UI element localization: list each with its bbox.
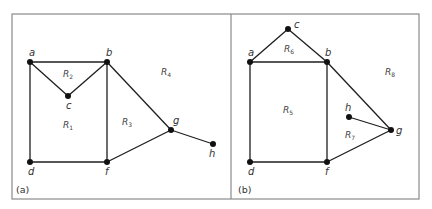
panel-b: abcdfghR5R6R7R8(b) [238, 19, 402, 195]
vertex-f [324, 159, 330, 165]
vertex-b [104, 59, 110, 65]
vertex-label-h: h [209, 148, 215, 159]
edge-c-b [68, 62, 107, 96]
vertex-label-f: f [325, 166, 330, 177]
region-label-r8: R8 [385, 67, 395, 78]
edge-a-c [30, 62, 68, 96]
figure-frame [12, 14, 419, 199]
edge-f-g [107, 130, 171, 162]
vertex-h [346, 114, 352, 120]
vertex-label-g: g [396, 125, 402, 136]
vertex-c [65, 93, 71, 99]
panel-label: (a) [16, 184, 29, 195]
vertex-label-c: c [66, 100, 72, 111]
vertex-g [388, 127, 394, 133]
edge-g-h [171, 130, 213, 144]
vertex-label-g: g [173, 115, 179, 126]
edge-f-g [327, 130, 391, 162]
edge-a-c [250, 29, 288, 62]
region-label-r5: R5 [283, 105, 293, 116]
region-label-r2: R2 [63, 69, 73, 80]
vertex-a [247, 59, 253, 65]
vertex-label-h: h [345, 102, 351, 113]
vertex-b [324, 59, 330, 65]
vertex-label-b: b [106, 47, 112, 58]
vertex-label-a: a [29, 47, 35, 58]
panel-label: (b) [238, 184, 251, 195]
vertex-h [210, 141, 216, 147]
vertex-label-f: f [105, 166, 110, 177]
region-label-r4: R4 [161, 67, 171, 78]
vertex-label-d: d [248, 166, 255, 177]
vertex-f [104, 159, 110, 165]
vertex-d [27, 159, 33, 165]
edge-c-b [288, 29, 327, 62]
region-label-r1: R1 [63, 120, 73, 131]
vertex-label-a: a [248, 47, 254, 58]
region-label-r7: R7 [345, 130, 355, 141]
vertex-d [247, 159, 253, 165]
vertex-a [27, 59, 33, 65]
vertex-c [285, 26, 291, 32]
planar-graph-figure: abcdfghR1R2R3R4(a) abcdfghR5R6R7R8(b) [0, 0, 432, 209]
vertex-label-b: b [325, 47, 331, 58]
region-label-r6: R6 [284, 44, 294, 55]
panel-a: abcdfghR1R2R3R4(a) [16, 47, 216, 195]
vertex-g [168, 127, 174, 133]
region-label-r3: R3 [122, 117, 132, 128]
vertex-label-d: d [28, 166, 35, 177]
vertex-label-c: c [294, 19, 300, 30]
